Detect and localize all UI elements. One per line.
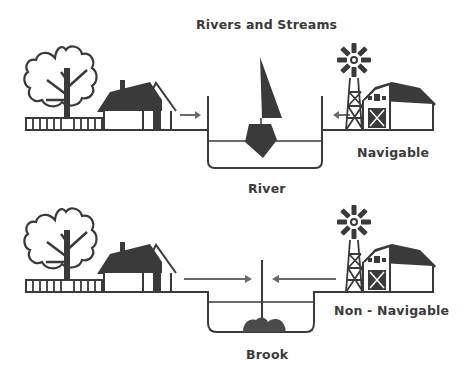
diagram-title: Rivers and Streams	[196, 17, 337, 32]
barn-icon	[363, 244, 436, 292]
diagram-canvas: Rivers and Streams River Navigable Brook…	[0, 0, 465, 377]
house-icon	[97, 242, 176, 292]
fence-icon	[26, 280, 102, 292]
barn-icon	[363, 82, 436, 130]
brook-label: Brook	[246, 347, 288, 362]
fence-icon	[26, 118, 102, 130]
navigable-label: Navigable	[357, 145, 429, 160]
non-navigable-label: Non - Navigable	[334, 303, 449, 318]
river-label: River	[248, 181, 286, 196]
boat-hull-icon	[245, 124, 277, 158]
rocks-icon	[243, 318, 286, 332]
house-icon	[97, 80, 176, 130]
sail-icon	[260, 57, 282, 118]
diagram-graphic	[0, 0, 465, 377]
